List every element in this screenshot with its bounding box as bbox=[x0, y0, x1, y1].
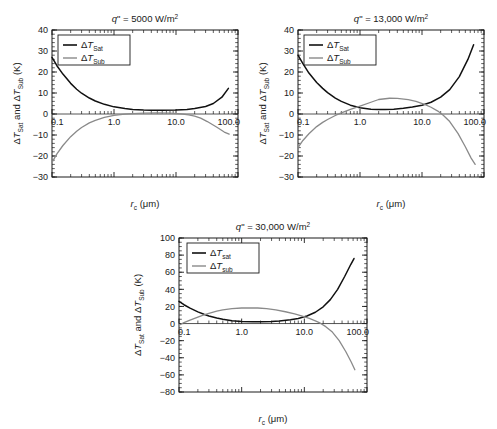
figure-container: q" = 5000 W/m2−30−20−100102030400.11.010… bbox=[0, 0, 497, 429]
legend: ΔTSatΔTSub bbox=[58, 35, 130, 65]
panel-title: q" = 5000 W/m2 bbox=[112, 13, 179, 25]
x-tick-labels: 0.11.010.0100.0 bbox=[297, 117, 486, 127]
svg-text:60: 60 bbox=[165, 267, 175, 277]
svg-text:10.0: 10.0 bbox=[413, 117, 431, 127]
svg-text:30: 30 bbox=[284, 46, 294, 56]
curve-delta-t-sub bbox=[298, 98, 475, 164]
svg-text:80: 80 bbox=[165, 250, 175, 260]
x-axis-title: rc (μm) bbox=[377, 198, 406, 211]
svg-text:40: 40 bbox=[165, 285, 175, 295]
svg-text:−30: −30 bbox=[279, 172, 294, 182]
curve-delta-t-sub bbox=[52, 113, 229, 162]
legend: ΔTSatΔTSub bbox=[304, 35, 376, 65]
svg-text:100: 100 bbox=[160, 233, 175, 243]
x-tick-labels: 0.11.010.0100.0 bbox=[178, 327, 369, 337]
svg-text:0.1: 0.1 bbox=[178, 327, 191, 337]
svg-text:40: 40 bbox=[38, 25, 48, 35]
svg-text:20: 20 bbox=[284, 67, 294, 77]
curve-delta-t-sub bbox=[179, 308, 355, 370]
svg-text:100.0: 100.0 bbox=[217, 117, 240, 127]
svg-text:−40: −40 bbox=[160, 353, 175, 363]
svg-text:100.0: 100.0 bbox=[463, 117, 486, 127]
panel-title: q" = 13,000 W/m2 bbox=[354, 13, 429, 25]
svg-text:30: 30 bbox=[38, 46, 48, 56]
svg-text:10: 10 bbox=[284, 88, 294, 98]
svg-text:0: 0 bbox=[170, 319, 175, 329]
svg-text:40: 40 bbox=[284, 25, 294, 35]
svg-text:20: 20 bbox=[165, 302, 175, 312]
svg-text:10.0: 10.0 bbox=[167, 117, 185, 127]
svg-text:20: 20 bbox=[38, 67, 48, 77]
svg-text:1.0: 1.0 bbox=[235, 327, 248, 337]
chart-panel-30000: q" = 30,000 W/m2−80−60−40−20020406080100… bbox=[127, 214, 377, 426]
svg-text:0: 0 bbox=[43, 109, 48, 119]
svg-text:1.0: 1.0 bbox=[108, 117, 121, 127]
svg-text:−60: −60 bbox=[160, 370, 175, 380]
chart-panel-13000: q" = 13,000 W/m2−30−20−100102030400.11.0… bbox=[254, 6, 492, 211]
svg-text:−20: −20 bbox=[279, 151, 294, 161]
svg-text:−20: −20 bbox=[33, 151, 48, 161]
plot-svg: q" = 30,000 W/m2−80−60−40−20020406080100… bbox=[127, 214, 377, 426]
svg-text:−80: −80 bbox=[160, 387, 175, 397]
svg-text:−10: −10 bbox=[279, 130, 294, 140]
svg-text:0: 0 bbox=[289, 109, 294, 119]
plot-svg: q" = 13,000 W/m2−30−20−100102030400.11.0… bbox=[254, 6, 492, 211]
y-axis-title: ΔTSat and ΔTSub (K) bbox=[11, 62, 24, 144]
plot-svg: q" = 5000 W/m2−30−20−100102030400.11.010… bbox=[8, 6, 246, 211]
svg-text:−30: −30 bbox=[33, 172, 48, 182]
y-axis-title: ΔTSat and ΔTSub (K) bbox=[132, 274, 145, 356]
svg-text:1.0: 1.0 bbox=[354, 117, 367, 127]
svg-text:0.1: 0.1 bbox=[51, 117, 64, 127]
svg-text:10: 10 bbox=[38, 88, 48, 98]
x-axis-title: rc (μm) bbox=[259, 413, 288, 426]
svg-text:10.0: 10.0 bbox=[296, 327, 314, 337]
svg-text:0.1: 0.1 bbox=[297, 117, 310, 127]
svg-text:−20: −20 bbox=[160, 336, 175, 346]
x-axis-title: rc (μm) bbox=[131, 198, 160, 211]
x-tick-labels: 0.11.010.0100.0 bbox=[51, 117, 240, 127]
y-axis-title: ΔTSat and ΔTSub (K) bbox=[257, 62, 270, 144]
svg-text:−10: −10 bbox=[33, 130, 48, 140]
chart-panel-5000: q" = 5000 W/m2−30−20−100102030400.11.010… bbox=[8, 6, 246, 211]
svg-text:100.0: 100.0 bbox=[346, 327, 369, 337]
panel-title: q" = 30,000 W/m2 bbox=[236, 221, 311, 233]
legend: ΔTsatΔTsub bbox=[187, 243, 259, 273]
